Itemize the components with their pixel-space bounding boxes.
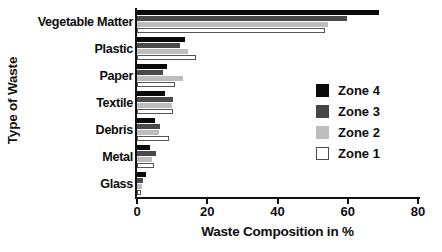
bar bbox=[137, 70, 163, 75]
y-axis-tick-label: Debris bbox=[24, 116, 136, 143]
legend-swatch-icon bbox=[316, 84, 329, 97]
bar bbox=[137, 172, 146, 177]
y-axis-tick-label: Plastic bbox=[24, 35, 136, 62]
bar bbox=[137, 10, 379, 15]
legend-swatch-icon bbox=[316, 105, 329, 118]
bar bbox=[137, 109, 173, 114]
x-axis-tick-label: 40 bbox=[258, 204, 298, 219]
legend-swatch-icon bbox=[316, 126, 329, 139]
x-axis-tick-label: 20 bbox=[187, 204, 227, 219]
bar bbox=[137, 97, 173, 102]
y-axis-tick-label: Paper bbox=[24, 62, 136, 89]
chart-legend: Zone 4Zone 3Zone 2Zone 1 bbox=[316, 80, 426, 164]
bar bbox=[137, 145, 150, 150]
y-axis-tick-label: Glass bbox=[24, 170, 136, 197]
x-axis-tick-label: 80 bbox=[398, 204, 438, 219]
legend-item[interactable]: Zone 3 bbox=[316, 101, 426, 122]
bar bbox=[137, 163, 154, 168]
bar bbox=[137, 151, 156, 156]
y-axis-tick-label: Vegetable Matter bbox=[24, 8, 136, 35]
y-axis-tick-labels: Vegetable MatterPlasticPaperTextileDebri… bbox=[24, 8, 136, 197]
bar bbox=[137, 157, 152, 162]
y-axis-title-text: Type of Waste bbox=[6, 56, 21, 143]
bar bbox=[137, 190, 141, 195]
bar bbox=[137, 55, 196, 60]
bar-group bbox=[137, 8, 418, 35]
bar bbox=[137, 28, 325, 33]
legend-swatch-icon bbox=[316, 147, 329, 160]
bar bbox=[137, 22, 328, 27]
x-axis-tick-label: 60 bbox=[328, 204, 368, 219]
bar bbox=[137, 49, 188, 54]
y-axis-tick-label: Metal bbox=[24, 143, 136, 170]
bar bbox=[137, 124, 160, 129]
bar bbox=[137, 64, 167, 69]
bar bbox=[137, 118, 155, 123]
bar bbox=[137, 91, 165, 96]
bar bbox=[137, 130, 159, 135]
y-axis-tick-label: Textile bbox=[24, 89, 136, 116]
y-axis-title: Type of Waste bbox=[0, 0, 26, 200]
legend-item-label: Zone 2 bbox=[338, 125, 380, 140]
bar bbox=[137, 16, 347, 21]
legend-item[interactable]: Zone 1 bbox=[316, 143, 426, 164]
legend-item-label: Zone 4 bbox=[338, 83, 380, 98]
bar-group bbox=[137, 170, 418, 197]
x-axis-tick-label: 0 bbox=[117, 204, 157, 219]
bar-group bbox=[137, 35, 418, 62]
bar bbox=[137, 136, 169, 141]
bar bbox=[137, 178, 143, 183]
legend-item-label: Zone 1 bbox=[338, 146, 380, 161]
bar bbox=[137, 43, 180, 48]
bar bbox=[137, 82, 175, 87]
legend-item[interactable]: Zone 2 bbox=[316, 122, 426, 143]
x-axis-title: Waste Composition in % bbox=[137, 224, 418, 239]
bar-chart: Type of Waste Vegetable MatterPlasticPap… bbox=[0, 0, 442, 252]
bar bbox=[137, 103, 172, 108]
legend-item[interactable]: Zone 4 bbox=[316, 80, 426, 101]
bar bbox=[137, 184, 142, 189]
bar bbox=[137, 76, 183, 81]
legend-item-label: Zone 3 bbox=[338, 104, 380, 119]
bar bbox=[137, 37, 185, 42]
